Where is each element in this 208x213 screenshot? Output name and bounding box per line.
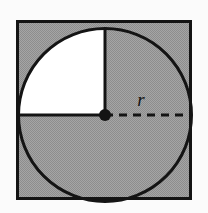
circle-in-square-diagram: r bbox=[0, 0, 208, 213]
radius-label: r bbox=[137, 89, 145, 110]
center-point-dot bbox=[99, 109, 111, 121]
figure-container: r bbox=[0, 0, 208, 213]
